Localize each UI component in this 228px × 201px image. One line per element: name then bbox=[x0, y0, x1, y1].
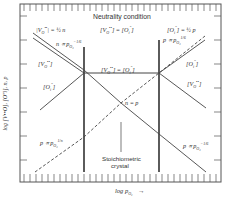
annot-p-right-top: p ∝ pO₂1/6 bbox=[163, 34, 186, 46]
x-axis-label-text: log p bbox=[115, 187, 128, 194]
annot-mid-eq-rest: ] = [O bbox=[113, 66, 130, 73]
annot-p-left: p ∝ pO₂1/n bbox=[40, 137, 63, 149]
x-axis-label: log pO₂ → bbox=[115, 187, 145, 197]
bottom-ticks bbox=[24, 174, 216, 182]
y-axis-label: log [V••O], [O″i], n, p bbox=[2, 76, 9, 130]
annot-oi-left-rest: ] bbox=[53, 83, 55, 90]
stoich-label-2: crystal bbox=[111, 162, 129, 169]
region-mid-sub2: i bbox=[128, 30, 129, 35]
annot-mid-eq-end: ] bbox=[132, 66, 134, 73]
annot-p-right-top-sub: O₂ bbox=[176, 40, 180, 45]
annot-p-right-bot-text: p ∝ p bbox=[183, 142, 196, 149]
annot-oi-left-text: [O bbox=[43, 83, 50, 90]
annot-mid-eq-sub: O bbox=[107, 70, 110, 75]
annot-mid-eq: [VO••] = [Oi″] bbox=[101, 64, 135, 76]
diagram-title: Neutrality condition bbox=[93, 13, 151, 20]
top-ticks bbox=[24, 4, 216, 11]
annot-mid-eq-sub2: i bbox=[129, 70, 130, 75]
annot-vo-right-rest: ] bbox=[199, 80, 201, 87]
annot-vo-left-sub: O bbox=[44, 64, 47, 69]
annot-n-prop-sub: O₂ bbox=[69, 44, 73, 49]
region-left-sub: O bbox=[41, 30, 44, 35]
annot-vo-right-sub: O bbox=[193, 84, 196, 89]
annot-oi-right-text: [O bbox=[186, 60, 193, 67]
line-n bbox=[33, 33, 206, 172]
annot-p-right-bot: p ∝ pO₂−1/6 bbox=[183, 140, 208, 152]
region-left-rest: | = ½ n bbox=[47, 26, 65, 33]
annot-oi-left-sub: i bbox=[50, 87, 51, 92]
annot-oi-right-sub: i bbox=[193, 64, 194, 69]
region-mid-label: [VO••] = [Oi″] bbox=[100, 24, 134, 36]
annot-n-prop: n ∝ pO₂−1/6 bbox=[56, 38, 81, 50]
annot-p-left-sub: O₂ bbox=[53, 143, 57, 148]
annot-n-eq-p: n = p bbox=[125, 99, 138, 106]
annot-vo-right: [VO••] bbox=[187, 78, 201, 90]
annot-oi-right-rest: ] bbox=[196, 60, 198, 67]
annot-p-right-top-text: p ∝ p bbox=[163, 36, 176, 43]
annot-p-right-bot-sup: −1/6 bbox=[201, 141, 209, 146]
region-mid-rest: ] = [O bbox=[112, 26, 129, 33]
x-axis-arrow-icon: → bbox=[138, 187, 145, 194]
annot-p-right-top-sup: 1/6 bbox=[181, 35, 186, 40]
annot-p-left-sup: 1/n bbox=[58, 138, 63, 143]
stoich-label-1: Stoichiometric bbox=[102, 155, 141, 162]
annot-n-prop-text: n ∝ p bbox=[56, 40, 69, 47]
annot-vo-left: [VO••] bbox=[38, 58, 52, 70]
annot-vo-left-rest: ] bbox=[50, 60, 52, 67]
region-mid-sub: O bbox=[106, 30, 109, 35]
annot-oi-right: [Oi″] bbox=[186, 58, 198, 70]
annot-p-right-bot-sub: O₂ bbox=[196, 146, 200, 151]
annot-p-left-text: p ∝ p bbox=[40, 139, 53, 146]
region-right-text: [O bbox=[167, 26, 174, 33]
annot-n-prop-sup: −1/6 bbox=[74, 39, 82, 44]
region-mid-end: ] bbox=[131, 26, 133, 33]
x-axis-label-sub: O₂ bbox=[128, 191, 132, 196]
annot-oi-left: [Oi″] bbox=[43, 81, 55, 93]
region-right-rest: ] = ½ p bbox=[177, 26, 196, 33]
region-left-label: |VO••| = ½ n bbox=[36, 24, 65, 36]
